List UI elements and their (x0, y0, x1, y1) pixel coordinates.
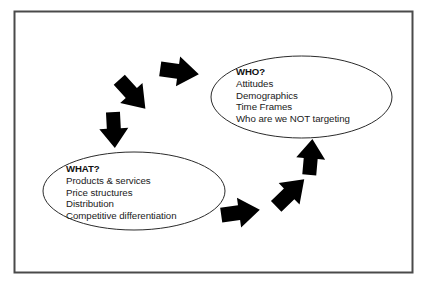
diagram-frame (15, 12, 413, 273)
cycle-diagram: WHO? Attitudes Demographics Time Frames … (0, 0, 425, 286)
what-line-3: Distribution (66, 198, 114, 209)
what-line-1: Products & services (66, 175, 151, 186)
what-heading: WHAT? (66, 163, 100, 174)
what-line-2: Price structures (66, 187, 133, 198)
who-line-4: Who are we NOT targeting (236, 113, 350, 124)
who-line-1: Attitudes (236, 78, 273, 89)
who-heading: WHO? (236, 66, 265, 77)
bubble-what: WHAT? Products & services Price structur… (43, 152, 225, 230)
who-line-3: Time Frames (236, 101, 292, 112)
bubble-who: WHO? Attitudes Demographics Time Frames … (211, 56, 392, 138)
who-line-2: Demographics (236, 90, 298, 101)
what-line-4: Competitive differentiation (66, 210, 176, 221)
